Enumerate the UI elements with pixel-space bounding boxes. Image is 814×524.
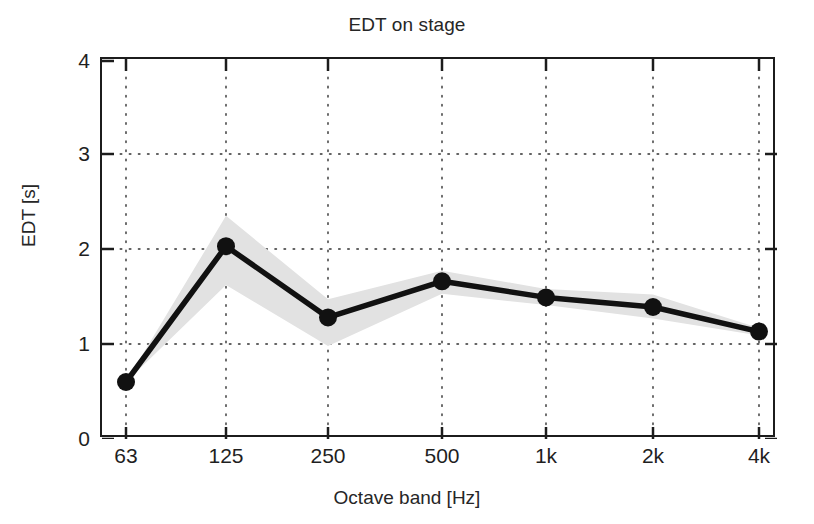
data-point-marker	[750, 323, 768, 341]
data-point-marker	[117, 373, 135, 391]
x-tick-label-2k: 2k	[642, 444, 664, 468]
data-point-marker	[319, 308, 337, 326]
plot-area: 0 1 2 3 4 63 125 250 500 1k 2k 4k	[100, 57, 775, 437]
x-tick-label-4k: 4k	[748, 444, 770, 468]
x-tick-label-1k: 1k	[535, 444, 557, 468]
chart-canvas	[102, 59, 777, 439]
y-tick-label-2: 2	[78, 237, 102, 261]
chart-figure: EDT on stage	[0, 0, 814, 524]
y-tick-label-1: 1	[78, 332, 102, 356]
x-tick-label-125: 125	[208, 444, 243, 468]
y-tick-label-3: 3	[78, 142, 102, 166]
data-point-marker	[433, 272, 451, 290]
y-tick-label-0: 0	[78, 427, 102, 451]
x-tick-label-500: 500	[424, 444, 459, 468]
x-tick-label-63: 63	[114, 444, 137, 468]
data-point-marker	[644, 298, 662, 316]
y-tick-label-4: 4	[78, 49, 102, 73]
y-axis-title: EDT [s]	[18, 184, 40, 247]
x-tick-label-250: 250	[310, 444, 345, 468]
x-axis-title: Octave band [Hz]	[0, 487, 814, 509]
data-point-marker	[217, 237, 235, 255]
data-point-marker	[537, 288, 555, 306]
chart-title: EDT on stage	[0, 14, 814, 36]
